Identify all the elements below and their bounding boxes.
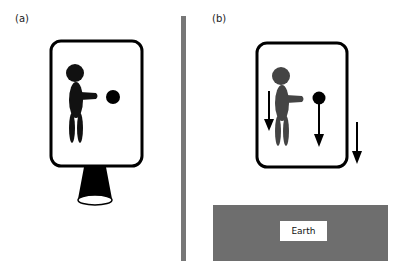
elevator-box-b <box>257 43 347 167</box>
ball-a-icon <box>106 90 120 104</box>
rocket-icon <box>78 167 112 205</box>
diagram-canvas <box>0 0 402 278</box>
panel-a <box>51 41 142 205</box>
panel-divider <box>181 16 186 261</box>
down-arrow-elevator-icon <box>352 122 362 164</box>
ball-b-icon <box>313 92 326 105</box>
elevator-box-a <box>51 41 142 166</box>
earth-label: Earth <box>280 221 327 241</box>
